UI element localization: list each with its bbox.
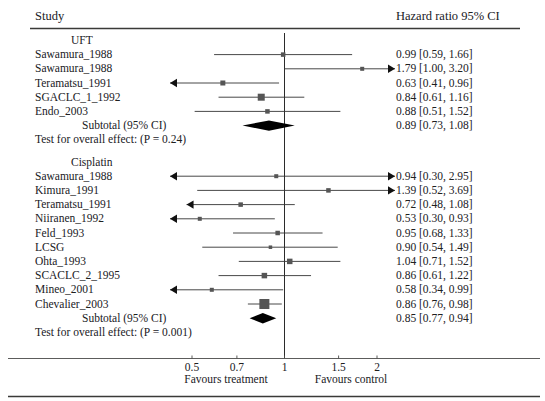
effect-estimate-marker xyxy=(287,259,293,265)
study-label: LCSG xyxy=(35,241,64,253)
group-title-uft: UFT xyxy=(71,34,93,46)
subtotal-diamond xyxy=(243,120,295,130)
effect-estimate-marker xyxy=(220,81,225,86)
arrow-left-icon xyxy=(170,172,177,180)
ci-row xyxy=(170,172,395,180)
subtotal-ci-text: 0.89 [0.73, 1.08] xyxy=(396,119,473,132)
study-ci-text: 0.58 [0.34, 0.99] xyxy=(396,283,473,296)
group-title-cisplatin: Cisplatin xyxy=(71,156,113,169)
study-label: Kimura_1991 xyxy=(35,184,99,196)
ci-row xyxy=(239,259,341,265)
subtotal-label: Subtotal (95% CI) xyxy=(82,119,166,132)
effect-estimate-marker xyxy=(198,217,202,221)
arrow-right-icon xyxy=(388,65,395,73)
study-label: Mineo_2001 xyxy=(35,283,94,295)
study-ci-text: 0.86 [0.76, 0.98] xyxy=(396,298,473,311)
study-ci-text: 0.99 [0.59, 1.66] xyxy=(396,48,473,61)
ci-row xyxy=(233,231,323,236)
ci-row xyxy=(197,186,395,194)
study-label: Ohta_1993 xyxy=(35,255,86,267)
study-label: Sawamura_1988 xyxy=(35,62,113,74)
effect-estimate-marker xyxy=(259,299,269,309)
ci-row xyxy=(202,245,337,249)
study-ci-text: 0.90 [0.54, 1.49] xyxy=(396,241,473,254)
ci-row xyxy=(219,273,312,279)
study-label: Teramatsu_1991 xyxy=(35,77,112,89)
arrow-right-icon xyxy=(388,172,395,180)
effect-estimate-marker xyxy=(281,52,286,57)
effect-estimate-marker xyxy=(269,245,273,249)
study-ci-text: 0.63 [0.41, 0.96] xyxy=(396,77,473,90)
arrow-left-icon xyxy=(170,79,177,87)
study-label: Teramatsu_1991 xyxy=(35,198,112,210)
ci-row xyxy=(285,65,396,73)
subtotal-ci-text: 0.85 [0.77, 0.94] xyxy=(396,312,473,325)
study-label: Niiranen_1992 xyxy=(35,212,104,224)
x-axis-tick-label: 0.7 xyxy=(230,361,245,373)
effect-estimate-marker xyxy=(210,288,214,292)
study-label: Sawamura_1988 xyxy=(35,48,113,60)
column-header-study: Study xyxy=(35,9,65,23)
ci-row xyxy=(219,94,305,101)
study-ci-text: 0.53 [0.30, 0.93] xyxy=(396,212,473,225)
ci-row xyxy=(187,200,295,208)
effect-estimate-marker xyxy=(275,231,280,236)
effect-estimate-marker xyxy=(360,67,364,71)
arrow-left-icon xyxy=(170,286,177,294)
x-axis-tick-label: 1.5 xyxy=(331,361,346,373)
effect-estimate-marker xyxy=(274,174,278,178)
effect-estimate-marker xyxy=(326,188,331,193)
study-ci-text: 0.88 [0.51, 1.52] xyxy=(396,105,473,118)
arrow-left-icon xyxy=(187,200,194,208)
x-axis-tick-label: 2 xyxy=(374,361,380,373)
ci-row xyxy=(170,215,275,223)
study-label: Feld_1993 xyxy=(35,227,84,239)
favours-control-label: Favours control xyxy=(315,373,388,385)
ci-row xyxy=(248,299,282,309)
study-label: Chevalier_2003 xyxy=(35,298,109,310)
study-label: Sawamura_1988 xyxy=(35,170,113,182)
study-ci-text: 0.72 [0.48, 1.08] xyxy=(396,198,473,211)
arrow-right-icon xyxy=(388,186,395,194)
effect-estimate-marker xyxy=(238,202,243,207)
study-ci-text: 1.39 [0.52, 3.69] xyxy=(396,184,473,197)
study-ci-text: 0.84 [0.61, 1.16] xyxy=(396,91,473,104)
subtotal-diamond xyxy=(250,313,277,323)
ci-row xyxy=(214,52,352,57)
x-axis-tick-label: 1 xyxy=(282,361,288,373)
ci-row xyxy=(170,286,283,294)
ci-row xyxy=(195,109,341,114)
overall-effect-test: Test for overall effect: (P = 0.24) xyxy=(35,133,186,146)
arrow-left-icon xyxy=(170,215,177,223)
study-label: SGACLC_1_1992 xyxy=(35,91,121,103)
favours-treatment-label: Favours treatment xyxy=(184,373,268,385)
ci-row xyxy=(170,79,279,87)
study-label: Endo_2003 xyxy=(35,105,88,117)
overall-effect-test: Test for overall effect: (P = 0.001) xyxy=(35,326,192,339)
study-ci-text: 1.04 [0.71, 1.52] xyxy=(396,255,473,268)
study-ci-text: 0.95 [0.68, 1.33] xyxy=(396,227,473,240)
effect-estimate-marker xyxy=(265,109,270,114)
subtotal-label: Subtotal (95% CI) xyxy=(82,312,166,325)
effect-estimate-marker xyxy=(258,94,265,101)
forest-plot-canvas: StudyHazard ratio 95% CIUFTSawamura_1988… xyxy=(0,0,545,401)
study-ci-text: 1.79 [1.00, 3.20] xyxy=(396,62,473,75)
effect-estimate-marker xyxy=(262,273,268,279)
x-axis-tick-label: 0.5 xyxy=(185,361,200,373)
column-header-ci: Hazard ratio 95% CI xyxy=(396,9,500,23)
study-ci-text: 0.86 [0.61, 1.22] xyxy=(396,269,473,282)
study-ci-text: 0.94 [0.30, 2.95] xyxy=(396,170,473,183)
study-label: SCACLC_2_1995 xyxy=(35,269,120,281)
